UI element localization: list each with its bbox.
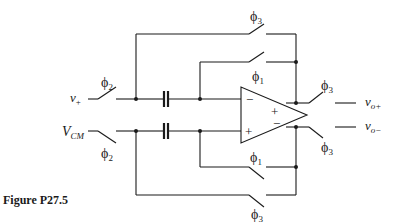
figure-caption: Figure P27.5 xyxy=(3,193,68,207)
input-plus-label: v+ xyxy=(70,90,81,107)
switch-phi3-out-top xyxy=(309,92,323,103)
switch-phi1-top xyxy=(249,52,264,62)
switch-phi3-bottom xyxy=(249,195,264,207)
phase-label-phi1-inner-bottom: ϕ1 xyxy=(250,150,262,167)
phase-label-phi3-out-top: ϕ3 xyxy=(321,78,333,95)
input-cm-branch xyxy=(88,123,241,143)
phase-label-phi3-outer-bottom: ϕ3 xyxy=(251,207,263,224)
output-minus-label: vo− xyxy=(365,118,381,135)
phase-label-phi1-inner-top: ϕ1 xyxy=(252,69,264,86)
opamp-plus-input-sign: + xyxy=(245,124,252,139)
feedback-outer-top xyxy=(136,24,296,103)
phase-label-phi2-bottom: ϕ2 xyxy=(101,146,113,163)
switch-phi2-bottom xyxy=(98,131,116,143)
input-cm-label: VCM xyxy=(62,124,85,141)
node-dot xyxy=(294,101,298,105)
circuit-diagram: − + + − v+ VCM vo+ vo− ϕ2 ϕ2 ϕ3 ϕ1 xyxy=(0,0,395,224)
switch-phi3-out-bottom xyxy=(309,127,323,138)
node-dot xyxy=(294,125,298,129)
opamp: − + + − xyxy=(241,87,307,143)
opamp-minus-output-sign: − xyxy=(273,116,280,131)
node-dot xyxy=(294,60,298,64)
phase-label-phi3-outer-top: ϕ3 xyxy=(250,9,262,26)
output-plus-label: vo+ xyxy=(365,94,381,111)
switch-phi1-bottom xyxy=(249,167,264,179)
opamp-minus-input-sign: − xyxy=(246,92,253,107)
phase-label-phi2-top: ϕ2 xyxy=(101,75,113,92)
phase-label-phi3-out-bottom: ϕ3 xyxy=(321,140,333,157)
